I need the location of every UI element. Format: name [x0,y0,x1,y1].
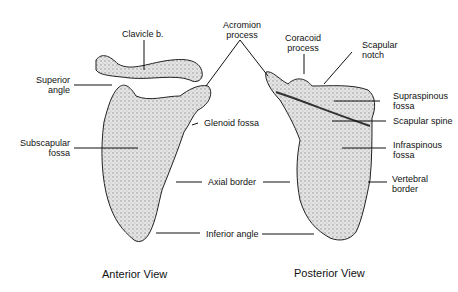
label-clavicle: Clavicle b. [122,29,164,39]
label-glenoid-fossa: Glenoid fossa [204,118,259,128]
label-subscapular-fossa: Subscapular fossa [14,138,70,158]
label-scapular-spine: Scapular spine [393,116,453,126]
label-supraspinous-fossa: Supraspinous fossa [393,91,448,111]
label-infraspinous-fossa: Infraspinous fossa [393,140,442,160]
posterior-scapula [266,72,375,240]
label-superior-angle: Superior angle [20,75,70,95]
caption-posterior-view: Posterior View [294,267,365,279]
label-axial-border: Axial border [208,177,256,187]
caption-anterior-view: Anterior View [102,268,167,280]
label-vertebral-border: Vertebral border [392,174,428,194]
label-coracoid: Coracoid process [285,33,321,53]
anterior-scapula [102,85,211,241]
clavicle-bone [96,56,202,82]
label-acromion: Acromion process [219,20,265,40]
label-scapular-notch: Scapular notch [362,40,398,60]
label-inferior-angle: Inferior angle [206,229,259,239]
